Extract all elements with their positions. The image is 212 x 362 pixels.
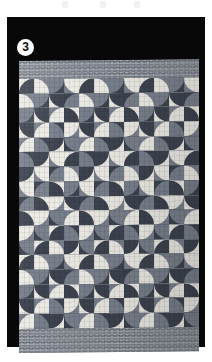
quilt-patch xyxy=(184,136,199,151)
quilt-patch xyxy=(34,152,49,167)
quilt-patch xyxy=(64,299,79,314)
quilt-patch xyxy=(154,136,169,151)
quilt-patch xyxy=(34,93,49,108)
quilt-patch-arc xyxy=(109,225,124,240)
quilt-patch xyxy=(49,284,64,299)
quilt-patch-arc xyxy=(64,211,79,226)
quilt-patch-arc xyxy=(124,298,139,313)
quilt-patch-arc xyxy=(184,107,199,122)
quilt-patch xyxy=(64,240,79,255)
quilt-patch-arc xyxy=(49,181,64,196)
quilt-patch xyxy=(49,255,64,270)
quilt-patch xyxy=(124,269,139,284)
quilt-patch-arc xyxy=(169,268,184,283)
quilt-patch xyxy=(94,269,109,284)
quilt-patch xyxy=(124,195,139,210)
quilt-patch-arc xyxy=(94,298,109,313)
quilt-patch xyxy=(169,92,184,107)
quilt-patch-arc xyxy=(49,270,64,285)
quilt-patch-arc xyxy=(79,255,94,270)
quilt-patch xyxy=(139,92,154,107)
quilt-patch-arc xyxy=(19,284,34,299)
quilt-patch-arc xyxy=(154,107,169,122)
quilt-patch-arc xyxy=(34,196,49,211)
quilt-patch xyxy=(154,92,169,107)
quilt-patch xyxy=(19,314,34,329)
quilt-patch-arc xyxy=(79,181,94,196)
quilt-patch xyxy=(124,151,139,166)
quilt-patch-arc xyxy=(124,78,139,93)
quilt-patch xyxy=(124,298,139,313)
quilt-patch-arc xyxy=(94,152,109,167)
quilt-patch xyxy=(109,166,124,181)
quilt-patch-arc xyxy=(49,255,64,270)
quilt-patch-arc xyxy=(64,137,79,152)
scan-artifact-mark xyxy=(134,1,140,8)
quilt-patch-arc xyxy=(64,181,79,196)
quilt-patch xyxy=(19,182,34,197)
quilt-patch-arc xyxy=(154,298,169,313)
quilt-patch xyxy=(19,226,34,241)
quilt-patch xyxy=(124,254,139,269)
quilt-patch xyxy=(34,270,49,285)
quilt-patch-arc xyxy=(154,210,169,225)
quilt-patch xyxy=(169,180,184,195)
quilt-patch xyxy=(94,254,109,269)
quilt-patch-arc xyxy=(184,92,199,107)
quilt-patch xyxy=(94,78,109,93)
quilt-patch-arc xyxy=(49,196,64,211)
quilt-patch-arc xyxy=(94,166,109,181)
quilt-patch-arc xyxy=(34,93,49,108)
quilt-patch xyxy=(34,284,49,299)
quilt-patch xyxy=(34,196,49,211)
quilt-patch-arc xyxy=(109,298,124,313)
quilt-patch xyxy=(109,313,124,328)
quilt-patch-arc xyxy=(49,299,64,314)
quilt-patch xyxy=(169,121,184,136)
quilt-patch xyxy=(154,313,169,328)
quilt-patch xyxy=(19,123,34,138)
quilt-patch-arc xyxy=(109,93,124,108)
quilt-patch-arc xyxy=(169,283,184,298)
quilt-patch xyxy=(139,78,154,93)
quilt-patch xyxy=(94,93,109,108)
quilt-image xyxy=(19,59,199,353)
quilt-patch-arc xyxy=(49,284,64,299)
quilt-patch xyxy=(79,137,94,152)
quilt-patch xyxy=(49,79,64,94)
quilt-patch-arc xyxy=(49,314,64,329)
quilt-patch-arc xyxy=(19,196,34,211)
quilt-patch-arc xyxy=(19,138,34,153)
quilt-patch xyxy=(64,225,79,240)
quilt-patch xyxy=(19,167,34,182)
quilt-patch-arc xyxy=(19,211,34,226)
quilt-patch-arc xyxy=(109,210,124,225)
quilt-patch-arc xyxy=(184,224,199,239)
quilt-patch-arc xyxy=(34,226,49,241)
quilt-patch xyxy=(94,196,109,211)
quilt-patch xyxy=(139,298,154,313)
quilt-patch xyxy=(109,93,124,108)
quilt-patch-arc xyxy=(64,196,79,211)
quilt-patch-arc xyxy=(64,255,79,270)
quilt-patch-arc xyxy=(124,107,139,122)
quilt-patch xyxy=(79,181,94,196)
quilt-patch-arc xyxy=(154,224,169,239)
quilt-patch-arc xyxy=(124,313,139,328)
quilt-patch xyxy=(184,224,199,239)
quilt-patch xyxy=(169,210,184,225)
quilt-patch xyxy=(169,195,184,210)
quilt-patch xyxy=(154,268,169,283)
quilt-patch xyxy=(169,254,184,269)
quilt-patch-arc xyxy=(49,108,64,123)
quilt-patch-arc xyxy=(49,93,64,108)
quilt-patchwork-field xyxy=(19,77,199,329)
quilt-patch-arc xyxy=(139,78,154,93)
quilt-patch-arc xyxy=(19,167,34,182)
quilt-patch-arc xyxy=(154,180,169,195)
quilt-patch xyxy=(109,107,124,122)
quilt-patch-arc xyxy=(94,225,109,240)
quilt-patch-arc xyxy=(34,270,49,285)
quilt-patch xyxy=(49,137,64,152)
quilt-patch xyxy=(154,151,169,166)
